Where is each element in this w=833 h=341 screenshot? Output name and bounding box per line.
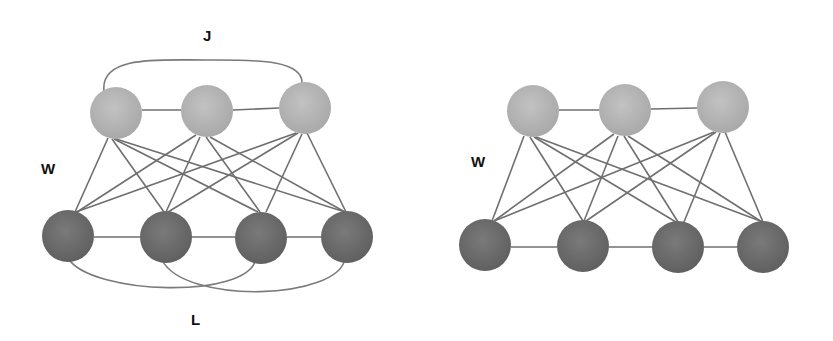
- boltzmann-machine-diagram: J W L: [41, 27, 373, 328]
- label-w-right: W: [471, 153, 486, 170]
- label-j: J: [203, 27, 211, 44]
- visible-node: [42, 210, 94, 262]
- hidden-node: [697, 81, 749, 133]
- rbm-diagram: W: [459, 81, 789, 273]
- network-diagrams: J W L: [0, 0, 833, 341]
- visible-node: [652, 221, 704, 273]
- visible-node: [459, 219, 511, 271]
- hidden-node: [279, 82, 331, 134]
- hidden-node: [507, 85, 559, 137]
- hidden-lateral-edge: [233, 108, 279, 110]
- visible-node: [140, 211, 192, 263]
- hidden-visible-edges: [75, 133, 346, 212]
- visible-node: [321, 211, 373, 263]
- label-l: L: [191, 311, 200, 328]
- visible-node: [557, 220, 609, 272]
- diagram-canvas: J W L: [0, 0, 833, 341]
- hidden-lateral-edge: [651, 108, 697, 109]
- hidden-node: [181, 85, 233, 137]
- visible-node: [235, 212, 287, 264]
- visible-node: [737, 221, 789, 273]
- label-w-left: W: [41, 160, 56, 177]
- hidden-node: [599, 84, 651, 136]
- hidden-visible-edges: [492, 132, 763, 222]
- hidden-node: [90, 87, 142, 139]
